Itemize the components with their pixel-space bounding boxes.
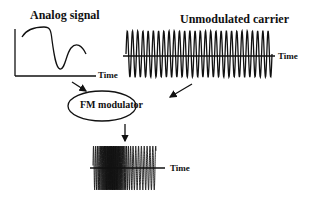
analog-axes [15,29,96,76]
fm-diagram [0,0,311,199]
carrier-wave [126,31,272,77]
arrow-carrier-to-modulator [170,84,192,97]
arrow-analog-to-modulator [72,82,86,91]
analog-signal-curve [22,27,86,69]
carrier-title: Unmodulated carrier [180,12,289,27]
carrier-time-label: Time [278,51,298,61]
fm-modulator-label: FM modulator [80,99,143,110]
analog-signal-title: Analog signal [30,8,100,23]
analog-time-label: Time [98,70,118,80]
output-time-label: Time [170,163,190,173]
